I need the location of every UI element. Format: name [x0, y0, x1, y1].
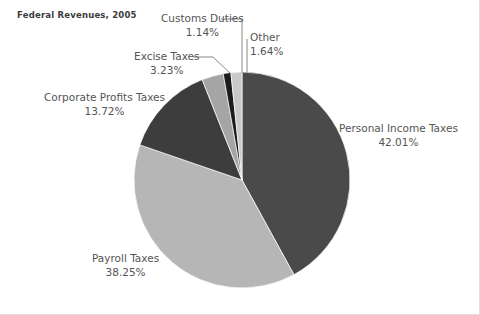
slice-label-other: Other 1.64%	[250, 31, 283, 58]
slice-label-value: 1.14%	[161, 26, 244, 40]
slice-label-name: Other	[250, 31, 283, 45]
slice-label-value: 3.23%	[134, 64, 200, 78]
slice-label-payroll-taxes: Payroll Taxes 38.25%	[92, 252, 159, 279]
slice-label-value: 13.72%	[44, 105, 165, 119]
slice-label-name: Payroll Taxes	[92, 252, 159, 266]
slice-label-value: 42.01%	[339, 136, 458, 150]
slice-label-name: Excise Taxes	[134, 50, 200, 64]
chart-canvas: Federal Revenues, 2005 Personal Income T…	[0, 0, 480, 315]
slice-label-name: Corporate Profits Taxes	[44, 91, 165, 105]
slice-label-customs-duties: Customs Duties 1.14%	[161, 12, 244, 39]
pie-chart-svg	[0, 0, 480, 315]
slice-label-name: Personal Income Taxes	[339, 122, 458, 136]
pie-slice-group	[134, 72, 350, 288]
slice-label-value: 1.64%	[250, 45, 283, 59]
slice-label-excise-taxes: Excise Taxes 3.23%	[134, 50, 200, 77]
slice-label-corporate-profits-taxes: Corporate Profits Taxes 13.72%	[44, 91, 165, 118]
slice-label-value: 38.25%	[92, 266, 159, 280]
slice-label-name: Customs Duties	[161, 12, 244, 26]
slice-label-personal-income-taxes: Personal Income Taxes 42.01%	[339, 122, 458, 149]
